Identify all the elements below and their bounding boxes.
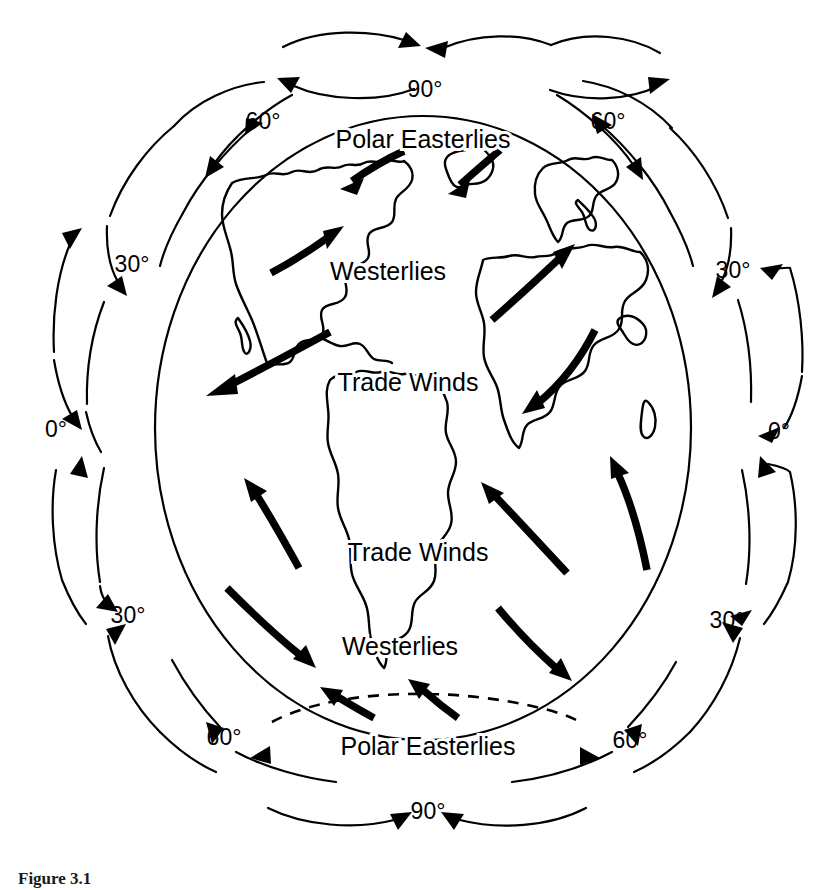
coastline-madagascar: [641, 401, 656, 438]
cell-polar-north-left: [277, 32, 421, 98]
arrow-polar-easterly-nw: [340, 151, 404, 195]
label-westerlies-south: Westerlies: [342, 632, 458, 660]
arrow-trade-n-left: [206, 332, 330, 396]
label-trade-winds-south: Trade Winds: [348, 538, 489, 566]
antarctic-polar-front: [272, 694, 580, 722]
label-trade-winds-north: Trade Winds: [338, 368, 479, 396]
global-circulation-diagram: 90° 60° 60° 30° 30° 0° 0° 30° 30° 60° 60…: [0, 0, 835, 890]
lat-label-60-south-right: 60°: [613, 727, 648, 753]
coastline-south-america: [327, 371, 456, 668]
lat-label-30-north-left: 30°: [115, 251, 150, 277]
lat-label-30-north-right: 30°: [716, 257, 751, 283]
arrow-trade-s-mid: [481, 482, 567, 573]
cell-hadley-south-left: [53, 456, 118, 624]
arrow-trade-s-left: [244, 478, 299, 568]
lat-label-60-north-left: 60°: [246, 108, 281, 134]
coastline-baja: [236, 318, 251, 354]
cell-ferrel-north-right: [592, 114, 731, 298]
arrow-polar-easterly-se: [408, 679, 458, 718]
lat-label-30-south-left: 30°: [111, 602, 146, 628]
figure-page: 90° 60° 60° 30° 30° 0° 0° 30° 30° 60° 60…: [0, 0, 835, 890]
cell-polar-north-right: [425, 36, 670, 98]
figure-caption: Figure 3.1: [18, 869, 91, 890]
arrow-westerly-s-right: [498, 608, 572, 681]
cell-hadley-north-right: [738, 264, 803, 443]
lat-label-0-left: 0°: [45, 416, 67, 442]
label-polar-easterlies-north: Polar Easterlies: [335, 125, 510, 153]
lat-label-60-south-left: 60°: [207, 724, 242, 750]
coastline-central-america: [318, 337, 392, 363]
coastline-africa: [476, 245, 648, 448]
arrow-westerly-n-right: [492, 244, 575, 320]
lat-label-90-south: 90°: [411, 798, 446, 824]
lat-label-60-north-right: 60°: [591, 108, 626, 134]
wind-belt-label-group: Polar Easterlies Westerlies Trade Winds …: [330, 125, 516, 760]
arrow-polar-easterly-sw: [320, 687, 374, 718]
lat-label-90-north: 90°: [408, 76, 443, 102]
lat-label-0-right: 0°: [768, 418, 790, 444]
lat-label-30-south-right: 30°: [710, 607, 745, 633]
label-polar-easterlies-south: Polar Easterlies: [340, 732, 515, 760]
label-westerlies-north: Westerlies: [330, 257, 446, 285]
cell-hadley-south-right: [730, 456, 796, 626]
arrow-trade-s-right: [610, 456, 647, 570]
